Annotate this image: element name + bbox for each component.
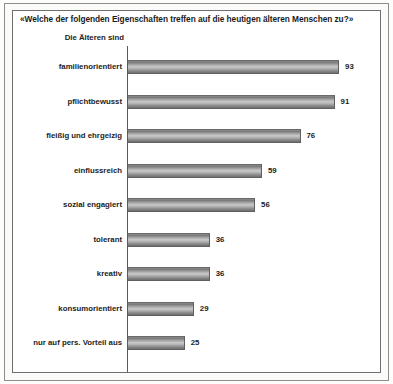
bar-value-label: 93 xyxy=(345,62,354,71)
bar-row: konsumorientiert29 xyxy=(0,301,393,317)
bar-value-label: 59 xyxy=(268,166,277,175)
bar-row: familienorientiert93 xyxy=(0,59,393,75)
bar-value-label: 56 xyxy=(261,200,270,209)
bar xyxy=(128,267,210,281)
bar-value-label: 91 xyxy=(341,97,350,106)
bar-category-label: nur auf pers. Vorteil aus xyxy=(0,338,122,347)
bar-category-label: kreativ xyxy=(0,269,122,278)
bar-category-label: konsumorientiert xyxy=(0,304,122,313)
bar-category-label: fleißig und ehrgeizig xyxy=(0,131,122,140)
bar-row: nur auf pers. Vorteil aus25 xyxy=(0,335,393,351)
bar-category-label: sozial engagiert xyxy=(0,200,122,209)
bar-row: tolerant36 xyxy=(0,232,393,248)
chart-figure: «Welche der folgenden Eigenschaften tref… xyxy=(0,0,393,384)
bar xyxy=(128,336,185,350)
bar xyxy=(128,302,194,316)
bar xyxy=(128,95,335,109)
bar-value-label: 29 xyxy=(200,304,209,313)
bar-category-label: einflussreich xyxy=(0,166,122,175)
bar-row: sozial engagiert56 xyxy=(0,197,393,213)
bar xyxy=(128,129,301,143)
bar-value-label: 36 xyxy=(216,269,225,278)
bar xyxy=(128,233,210,247)
bar xyxy=(128,60,339,74)
bar-value-label: 36 xyxy=(216,235,225,244)
plot-area: familienorientiert93pflichtbewusst91flei… xyxy=(0,0,393,384)
bar xyxy=(128,164,262,178)
bar-row: kreativ36 xyxy=(0,266,393,282)
bar-category-label: pflichtbewusst xyxy=(0,97,122,106)
bar-row: einflussreich59 xyxy=(0,163,393,179)
bar-value-label: 76 xyxy=(307,131,316,140)
bar-row: fleißig und ehrgeizig76 xyxy=(0,128,393,144)
bar-category-label: familienorientiert xyxy=(0,62,122,71)
bar-row: pflichtbewusst91 xyxy=(0,94,393,110)
bar-value-label: 25 xyxy=(191,338,200,347)
bar xyxy=(128,198,255,212)
bar-category-label: tolerant xyxy=(0,235,122,244)
